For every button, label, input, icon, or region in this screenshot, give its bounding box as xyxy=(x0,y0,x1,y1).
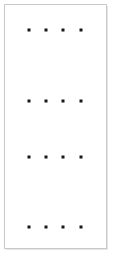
dot-grid-panel xyxy=(4,4,107,249)
grid-dot xyxy=(28,100,31,103)
grid-dot xyxy=(28,226,31,229)
grid-dot xyxy=(80,156,83,159)
grid-dot xyxy=(28,156,31,159)
grid-dot xyxy=(45,29,48,32)
grid-dot xyxy=(62,29,65,32)
grid-dot xyxy=(80,226,83,229)
grid-dot xyxy=(45,226,48,229)
grid-dot xyxy=(45,156,48,159)
grid-dot xyxy=(45,100,48,103)
grid-dot xyxy=(62,156,65,159)
grid-dot xyxy=(80,29,83,32)
grid-dot xyxy=(28,29,31,32)
grid-dot xyxy=(62,226,65,229)
screenshot-canvas xyxy=(0,0,113,261)
grid-dot xyxy=(62,100,65,103)
grid-dot xyxy=(80,100,83,103)
